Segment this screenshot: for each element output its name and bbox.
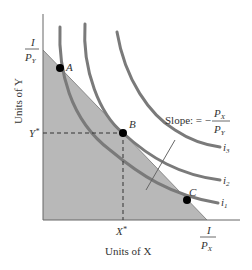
point-b	[119, 129, 127, 137]
point-a-label: A	[65, 61, 73, 73]
y-intercept-numerator: I	[30, 36, 36, 48]
point-b-label: B	[129, 118, 136, 130]
x-intercept-denominator: PX	[200, 239, 213, 253]
point-c-label: C	[189, 186, 197, 198]
slope-numerator: PX	[213, 107, 226, 121]
y-axis-label: Units of Y	[12, 78, 24, 124]
curve-i3-label: i3	[223, 141, 230, 155]
curve-i2-label: i2	[223, 174, 230, 188]
y-star-label: Y*	[29, 127, 39, 139]
x-star-label: X*	[115, 225, 127, 237]
slope-denominator: PY	[213, 123, 226, 137]
slope-label-prefix: Slope: = −	[165, 114, 211, 126]
y-intercept-denominator: PY	[24, 51, 37, 65]
point-a	[56, 64, 64, 72]
curve-i1-label: i1	[221, 196, 228, 210]
x-axis-label: Units of X	[105, 245, 152, 257]
indifference-diagram: A B C i3 i2 i1 Slope: = − PX PY I PY Y* …	[0, 0, 252, 270]
x-intercept-numerator: I	[206, 224, 212, 236]
